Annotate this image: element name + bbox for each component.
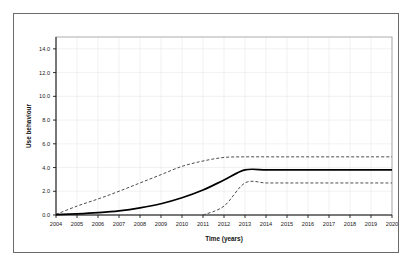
x-tick-label: 2013 [239, 221, 251, 227]
x-tick-label: 2004 [50, 221, 62, 227]
y-tick-label: 0.0 [42, 212, 50, 218]
y-tick-label: 14.0 [39, 46, 50, 52]
y-tick-label: 12.0 [39, 70, 50, 76]
x-tick-label: 2011 [197, 221, 209, 227]
y-tick-label: 6.0 [42, 141, 50, 147]
x-tick-label: 2012 [218, 221, 230, 227]
x-tick-label: 2007 [113, 221, 125, 227]
chart-figure: 2004200520062007200820092010201120122013… [0, 0, 413, 268]
y-tick-label: 4.0 [42, 165, 50, 171]
x-tick-label: 2010 [176, 221, 188, 227]
x-tick-label: 2009 [155, 221, 167, 227]
x-tick-label: 2018 [344, 221, 356, 227]
x-tick-label: 2014 [260, 221, 272, 227]
x-tick-label: 2016 [302, 221, 314, 227]
x-tick-label: 2020 [386, 221, 398, 227]
y-axis-title: Use behaviour [25, 103, 32, 148]
y-axis-tick-labels: 0.02.04.06.08.010.012.014.0 [39, 46, 50, 218]
y-tick-label: 10.0 [39, 93, 50, 99]
x-tick-label: 2015 [281, 221, 293, 227]
x-tick-label: 2019 [365, 221, 377, 227]
x-tick-label: 2017 [323, 221, 335, 227]
x-axis-title: Time (years) [205, 235, 243, 243]
y-tick-label: 2.0 [42, 188, 50, 194]
x-axis-tick-labels: 2004200520062007200820092010201120122013… [50, 221, 398, 227]
x-tick-label: 2008 [134, 221, 146, 227]
line-chart: 2004200520062007200820092010201120122013… [0, 0, 413, 268]
x-tick-label: 2006 [92, 221, 104, 227]
x-tick-label: 2005 [71, 221, 83, 227]
y-tick-label: 8.0 [42, 117, 50, 123]
